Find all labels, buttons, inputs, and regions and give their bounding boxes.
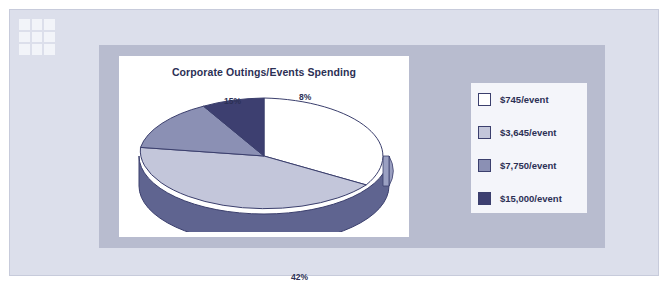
pie-wall-right xyxy=(389,156,393,186)
chart-widget[interactable]: Corporate Outings/Events Spending xyxy=(99,45,605,248)
legend-swatch-icon xyxy=(478,93,491,106)
grid-cell xyxy=(32,32,43,43)
legend-swatch-icon xyxy=(478,126,491,139)
pie-wall-white-edge xyxy=(383,156,389,186)
legend-item-15000[interactable]: $15,000/event xyxy=(471,182,587,214)
legend-swatch-icon xyxy=(478,159,491,172)
grid-cell xyxy=(19,32,30,43)
plot-area: Corporate Outings/Events Spending xyxy=(119,56,409,237)
legend-label: $15,000/event xyxy=(500,193,562,204)
legend-label: $7,750/event xyxy=(500,160,557,171)
grid-3x3-icon xyxy=(19,19,55,55)
grid-cell xyxy=(19,19,30,30)
legend-item-7750[interactable]: $7,750/event xyxy=(471,149,587,181)
legend-item-745[interactable]: $745/event xyxy=(471,83,587,115)
chart-legend: $745/event $3,645/event $7,750/event $15… xyxy=(471,83,587,213)
grid-cell xyxy=(44,32,55,43)
chart-title: Corporate Outings/Events Spending xyxy=(119,66,409,78)
legend-swatch-icon xyxy=(478,192,491,205)
legend-item-3645[interactable]: $3,645/event xyxy=(471,116,587,148)
data-label-3645: 42% xyxy=(291,272,308,282)
grid-cell xyxy=(19,44,30,55)
data-label-7750: 15% xyxy=(224,96,241,106)
grid-cell xyxy=(44,19,55,30)
grid-cell xyxy=(32,19,43,30)
grid-cell xyxy=(44,44,55,55)
legend-label: $3,645/event xyxy=(500,127,557,138)
legend-label: $745/event xyxy=(500,94,549,105)
pie-chart-3d xyxy=(119,80,409,232)
data-label-15000: 8% xyxy=(299,92,311,102)
screenshot-root: Corporate Outings/Events Spending xyxy=(0,0,668,293)
grid-cell xyxy=(32,44,43,55)
